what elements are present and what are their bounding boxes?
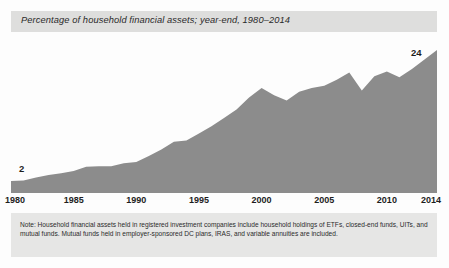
chart-plot-area [11, 38, 437, 193]
x-axis-tick-label: 2005 [314, 195, 334, 205]
chart-note-text: Note: Household financial assets held in… [20, 220, 428, 239]
x-axis-tick-label: 1995 [189, 195, 209, 205]
chart-note-bar: Note: Household financial assets held in… [11, 213, 437, 257]
chart-title-bar: Percentage of household financial assets… [11, 11, 437, 32]
x-axis-tick-label: 2014 [421, 195, 441, 205]
chart-figure: Percentage of household financial assets… [0, 0, 449, 268]
x-axis-tick-label: 1985 [64, 195, 84, 205]
x-axis-tick-label: 1990 [126, 195, 146, 205]
x-axis-tick-label: 2010 [377, 195, 397, 205]
x-axis-ticks: 19801985199019952000200520102014 [11, 195, 437, 209]
page-title: Percentage of household financial assets… [21, 15, 290, 25]
start-value-label: 2 [19, 163, 24, 174]
x-axis-tick-label: 1980 [5, 195, 25, 205]
x-axis-tick-label: 2000 [252, 195, 272, 205]
end-value-label: 24 [411, 47, 422, 58]
area-series-path [11, 50, 437, 193]
area-series [11, 38, 437, 193]
